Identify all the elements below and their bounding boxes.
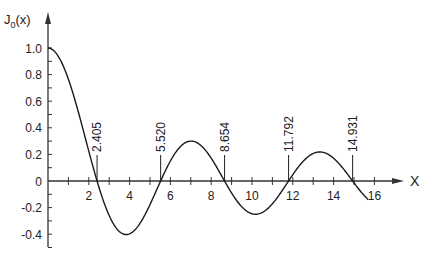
zero-marker-label: 8.654 xyxy=(218,122,232,152)
x-tick-label: 4 xyxy=(126,189,133,203)
y-axis-arrow-icon xyxy=(45,12,51,24)
x-tick-label: 2 xyxy=(85,189,92,203)
y-axis-label: J0(x) xyxy=(4,12,31,30)
x-axis-arrow-icon xyxy=(392,178,404,184)
x-tick-label: 6 xyxy=(167,189,174,203)
y-tick-label: 0.8 xyxy=(25,68,42,82)
x-tick-label: 12 xyxy=(286,189,300,203)
y-tick-label: 0.2 xyxy=(25,148,42,162)
zero-marker-label: 14.931 xyxy=(346,115,360,152)
x-tick-label: 8 xyxy=(208,189,215,203)
y-tick-label: -0.4 xyxy=(21,228,42,242)
zero-marker-label: 2.405 xyxy=(90,122,104,152)
y-tick-label: 1.0 xyxy=(25,42,42,56)
x-tick-label: 10 xyxy=(245,189,259,203)
zero-marker-label: 5.520 xyxy=(154,122,168,152)
y-tick-label: 0.4 xyxy=(25,121,42,135)
zero-marker-label: 11.792 xyxy=(282,116,296,152)
y-tick-label: 0 xyxy=(35,175,42,189)
ticks: 2468101214161.00.80.60.40.20-0.2-0.4 xyxy=(21,42,381,248)
zero-markers: 2.4055.5208.65411.79214.931 xyxy=(90,115,360,181)
y-tick-label: 0.6 xyxy=(25,95,42,109)
bessel-chart: 2468101214161.00.80.60.40.20-0.2-0.4 2.4… xyxy=(0,0,439,259)
x-axis-label: X xyxy=(410,173,420,189)
y-tick-label: -0.2 xyxy=(21,201,42,215)
x-tick-label: 14 xyxy=(327,189,341,203)
x-tick-label: 16 xyxy=(368,189,382,203)
